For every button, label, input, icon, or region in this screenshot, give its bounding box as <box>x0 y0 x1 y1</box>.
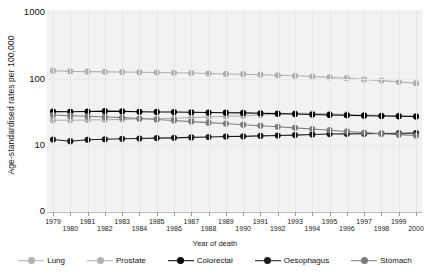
legend-item-oesophagus[interactable]: Oesophagus <box>255 256 329 265</box>
x-tick-mark <box>243 212 244 216</box>
x-tick-label: 1989 <box>211 218 241 225</box>
legend-label: Colorectal <box>197 256 233 265</box>
gridline-vertical <box>157 10 158 212</box>
x-tick-mark <box>295 212 296 216</box>
x-tick-mark <box>88 212 89 216</box>
plot-area <box>47 10 422 212</box>
x-tick-label: 1994 <box>297 225 327 232</box>
gridline-vertical <box>295 10 296 212</box>
x-tick-mark <box>157 212 158 216</box>
gridline-vertical <box>88 10 89 212</box>
legend-label: Prostate <box>116 256 146 265</box>
x-tick-label: 1997 <box>349 218 379 225</box>
x-tick-label: 2000 <box>401 225 430 232</box>
x-tick-mark <box>70 212 71 216</box>
x-tick-label: 1990 <box>228 225 258 232</box>
x-tick-label: 1982 <box>90 225 120 232</box>
x-tick-mark <box>105 212 106 216</box>
x-tick-label: 1992 <box>263 225 293 232</box>
x-tick-label: 1987 <box>176 218 206 225</box>
x-tick-mark <box>381 212 382 216</box>
gridline-vertical <box>364 10 365 212</box>
legend-label: Oesophagus <box>284 256 329 265</box>
x-tick-label: 1983 <box>107 218 137 225</box>
gridline-horizontal <box>47 145 422 146</box>
y-tick-label: 10 <box>3 140 45 150</box>
legend-item-prostate[interactable]: Prostate <box>87 256 146 265</box>
legend-item-lung[interactable]: Lung <box>18 256 65 265</box>
x-tick-label: 1998 <box>366 225 396 232</box>
legend-label: Lung <box>47 256 65 265</box>
x-tick-label: 1996 <box>332 225 362 232</box>
y-tick-label: 1000 <box>3 7 45 17</box>
legend-item-stomach[interactable]: Stomach <box>351 256 412 265</box>
x-tick-label: 1991 <box>245 218 275 225</box>
gridline-vertical <box>330 10 331 212</box>
x-tick-mark <box>278 212 279 216</box>
series-canvas <box>47 10 422 212</box>
gridline-vertical <box>312 10 313 212</box>
x-tick-mark <box>226 212 227 216</box>
y-tick-label: 100 <box>3 74 45 84</box>
gridline-vertical <box>53 10 54 212</box>
x-tick-mark <box>399 212 400 216</box>
x-tick-label: 1995 <box>315 218 345 225</box>
x-tick-mark <box>53 212 54 216</box>
chart-figure: Age-standardised rates per 100,000 1000 … <box>0 0 430 278</box>
x-tick-mark <box>174 212 175 216</box>
gridline-vertical <box>347 10 348 212</box>
x-tick-mark <box>330 212 331 216</box>
gridline-vertical <box>174 10 175 212</box>
x-tick-label: 1980 <box>55 225 85 232</box>
x-tick-label: 1999 <box>384 218 414 225</box>
legend-item-colorectal[interactable]: Colorectal <box>168 256 233 265</box>
gridline-vertical <box>381 10 382 212</box>
legend-marker-icon <box>168 260 194 262</box>
x-tick-mark <box>191 212 192 216</box>
gridline-vertical <box>226 10 227 212</box>
x-tick-label: 1981 <box>73 218 103 225</box>
x-tick-label: 1988 <box>194 225 224 232</box>
x-tick-mark <box>122 212 123 216</box>
gridline-horizontal <box>47 12 422 13</box>
legend-marker-icon <box>18 260 44 262</box>
x-axis-title: Year of death <box>0 239 430 248</box>
gridline-vertical <box>105 10 106 212</box>
x-axis-line <box>47 212 422 213</box>
legend-marker-icon <box>255 260 281 262</box>
x-tick-mark <box>139 212 140 216</box>
x-tick-mark <box>260 212 261 216</box>
chart-legend: LungProstateColorectalOesophagusStomach <box>0 256 430 265</box>
x-tick-mark <box>416 212 417 216</box>
legend-marker-icon <box>87 260 113 262</box>
x-tick-mark <box>312 212 313 216</box>
gridline-vertical <box>399 10 400 212</box>
gridline-vertical <box>243 10 244 212</box>
x-tick-label: 1993 <box>280 218 310 225</box>
gridline-vertical <box>278 10 279 212</box>
gridline-vertical <box>416 10 417 212</box>
gridline-vertical <box>209 10 210 212</box>
x-tick-label: 1984 <box>124 225 154 232</box>
x-tick-mark <box>347 212 348 216</box>
x-tick-label: 1985 <box>142 218 172 225</box>
gridline-vertical <box>191 10 192 212</box>
gridline-vertical <box>70 10 71 212</box>
y-tick-label: 0 <box>3 206 45 216</box>
gridline-vertical <box>122 10 123 212</box>
x-tick-mark <box>364 212 365 216</box>
x-tick-label: 1986 <box>159 225 189 232</box>
legend-marker-icon <box>351 260 377 262</box>
gridline-horizontal <box>47 79 422 80</box>
y-axis-ticks: 1000 100 10 0 <box>0 0 45 220</box>
gridline-vertical <box>139 10 140 212</box>
x-tick-label: 1979 <box>38 218 68 225</box>
x-tick-mark <box>209 212 210 216</box>
legend-label: Stomach <box>380 256 412 265</box>
gridline-vertical <box>260 10 261 212</box>
